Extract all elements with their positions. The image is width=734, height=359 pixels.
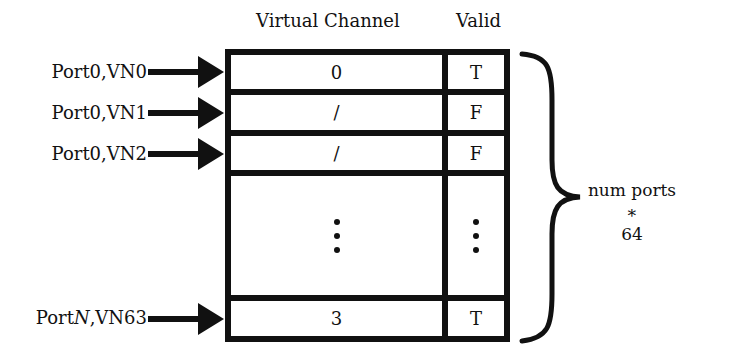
vc-cell-row2: / bbox=[231, 136, 442, 170]
brace-label-line2: 64 bbox=[582, 223, 682, 245]
input-label-last: PortN,VN63 bbox=[36, 307, 147, 328]
arrow-head-icon bbox=[198, 138, 224, 170]
input-label-row2: Port0,VN2 bbox=[52, 143, 147, 164]
vc-cell-row0: 0 bbox=[231, 55, 442, 89]
vertical-ellipsis-icon bbox=[334, 219, 340, 253]
header-virtual-channel: Virtual Channel bbox=[256, 10, 400, 31]
input-label-row0: Port0,VN0 bbox=[52, 61, 147, 82]
brace-label: num ports ∗ 64 bbox=[582, 179, 682, 245]
arrow-row1 bbox=[148, 110, 200, 116]
valid-cell-row0: T bbox=[448, 55, 504, 89]
arrow-last bbox=[148, 316, 200, 322]
input-label-prefix: Port bbox=[36, 307, 74, 328]
valid-cell-row1: F bbox=[448, 95, 504, 130]
arrow-head-icon bbox=[198, 56, 224, 88]
arrow-head-icon bbox=[198, 303, 224, 335]
valid-cell-ellipsis bbox=[448, 176, 504, 295]
arrow-row0 bbox=[148, 69, 200, 75]
header-valid: Valid bbox=[456, 10, 501, 31]
brace-label-line1: num ports ∗ bbox=[582, 179, 682, 223]
right-brace-icon bbox=[518, 50, 588, 345]
input-label-suffix: ,VN63 bbox=[90, 307, 147, 328]
valid-cell-last: T bbox=[448, 301, 504, 336]
valid-cell-row2: F bbox=[448, 136, 504, 170]
input-label-var: N bbox=[74, 307, 90, 328]
vc-cell-ellipsis bbox=[231, 176, 442, 295]
arrow-head-icon bbox=[198, 97, 224, 129]
arrow-row2 bbox=[148, 151, 200, 157]
vc-cell-row1: / bbox=[231, 95, 442, 130]
vertical-ellipsis-icon bbox=[473, 219, 479, 253]
vc-cell-last: 3 bbox=[231, 301, 442, 336]
input-label-row1: Port0,VN1 bbox=[52, 102, 147, 123]
